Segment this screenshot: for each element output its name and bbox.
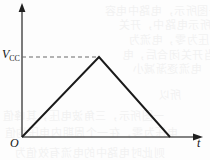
- x-axis: [22, 133, 203, 140]
- waveform-trace: [22, 57, 170, 137]
- y-axis-value-subscript: CC: [9, 54, 19, 63]
- y-axis: [19, 3, 26, 137]
- waveform-plot: [0, 0, 210, 160]
- x-axis-label: t: [197, 136, 200, 151]
- y-axis-value-label: VCC: [2, 47, 20, 63]
- origin-label: O: [10, 136, 19, 151]
- figure-container: —一图所示，电路中电容如图所示电路中，开关电压为零，电流为当开关闭合后，电电流逐…: [0, 0, 210, 160]
